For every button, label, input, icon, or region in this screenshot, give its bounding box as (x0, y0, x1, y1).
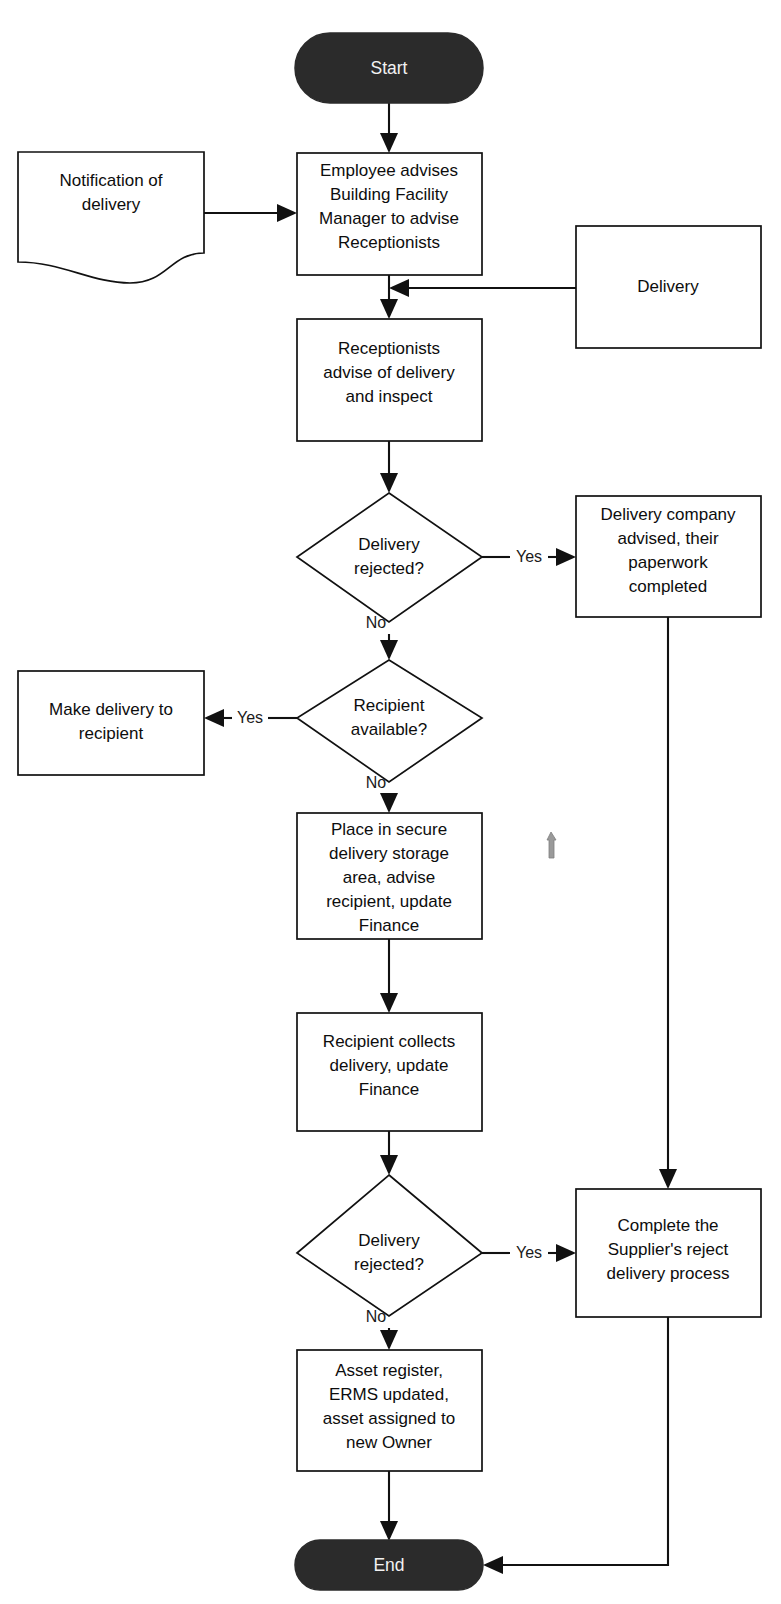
node-delivery-company-advised[interactable]: Delivery company advised, their paperwor… (576, 496, 761, 617)
node-collects-line-1: Recipient collects (323, 1032, 455, 1051)
edge-label-rejected1-yes: Yes (516, 548, 542, 565)
edge-asset-to-end (380, 1471, 398, 1541)
node-notification-line-2: delivery (82, 195, 141, 214)
node-decision-delivery-rejected-2[interactable]: Delivery rejected? (297, 1175, 482, 1316)
node-collects-line-3: Finance (359, 1080, 419, 1099)
node-rejected2-line-2: rejected? (354, 1255, 424, 1274)
edge-employee-to-receptionists (380, 275, 398, 319)
edge-label-available-yes: Yes (237, 709, 263, 726)
node-secure-line-3: area, advise (343, 868, 436, 887)
node-employee-line-4: Receptionists (338, 233, 440, 252)
node-decision-recipient-available[interactable]: Recipient available? (297, 660, 482, 782)
node-recipient-collects-delivery[interactable]: Recipient collects delivery, update Fina… (297, 1013, 482, 1131)
node-asset-register-updated[interactable]: Asset register, ERMS updated, asset assi… (297, 1350, 482, 1471)
node-end[interactable]: End (295, 1540, 483, 1590)
node-employee-line-1: Employee advises (320, 161, 458, 180)
node-asset-line-4: new Owner (346, 1433, 432, 1452)
flowchart-svg: Yes No Yes No (0, 0, 781, 1604)
node-complete-supplier-reject-process[interactable]: Complete the Supplier's reject delivery … (576, 1189, 761, 1317)
edge-start-to-employee (380, 103, 398, 153)
edge-secure-to-collects (380, 939, 398, 1013)
node-make-delivery-to-recipient[interactable]: Make delivery to recipient (18, 671, 204, 775)
node-rejected2-line-1: Delivery (358, 1231, 420, 1250)
edge-company-to-supplier (659, 617, 677, 1189)
node-asset-line-1: Asset register, (335, 1361, 443, 1380)
node-employee-line-2: Building Facility (330, 185, 449, 204)
node-end-label: End (373, 1555, 404, 1575)
edge-collects-to-rejected2 (380, 1131, 398, 1175)
node-delivery-label: Delivery (637, 277, 699, 296)
node-start[interactable]: Start (295, 33, 483, 103)
edge-label-rejected2-yes: Yes (516, 1244, 542, 1261)
edge-available-yes-to-makedelivery: Yes (204, 709, 297, 727)
node-notification-of-delivery[interactable]: Notification of delivery (18, 152, 204, 283)
node-asset-line-2: ERMS updated, (329, 1385, 449, 1404)
pointer-cursor-icon (547, 832, 556, 858)
node-secure-line-2: delivery storage (329, 844, 449, 863)
node-receptionists-advise[interactable]: Receptionists advise of delivery and ins… (297, 319, 482, 441)
node-supplier-line-1: Complete the (617, 1216, 718, 1235)
node-decision-delivery-rejected-1[interactable]: Delivery rejected? (297, 493, 482, 622)
edge-notification-to-employee (204, 204, 297, 222)
node-available-line-2: available? (351, 720, 428, 739)
node-company-line-4: completed (629, 577, 707, 596)
node-delivery[interactable]: Delivery (576, 226, 761, 348)
edge-receptionists-to-rejected1 (380, 441, 398, 493)
edge-rejected1-yes-to-company: Yes (482, 548, 576, 566)
node-company-line-2: advised, their (617, 529, 718, 548)
node-asset-line-3: asset assigned to (323, 1409, 455, 1428)
node-company-line-3: paperwork (628, 553, 708, 572)
node-supplier-line-2: Supplier's reject (608, 1240, 729, 1259)
edge-supplier-to-end (483, 1317, 668, 1574)
node-secure-line-5: Finance (359, 916, 419, 935)
node-supplier-line-3: delivery process (607, 1264, 730, 1283)
node-secure-line-1: Place in secure (331, 820, 447, 839)
node-available-line-1: Recipient (354, 696, 425, 715)
flowchart-canvas: Yes No Yes No (0, 0, 781, 1604)
edge-rejected2-yes-to-supplier: Yes (482, 1244, 576, 1262)
node-rejected1-line-2: rejected? (354, 559, 424, 578)
node-start-label: Start (371, 58, 408, 78)
node-collects-line-2: delivery, update (330, 1056, 449, 1075)
node-rejected1-line-1: Delivery (358, 535, 420, 554)
node-employee-line-3: Manager to advise (319, 209, 459, 228)
node-notification-line-1: Notification of (60, 171, 163, 190)
node-place-in-secure-storage[interactable]: Place in secure delivery storage area, a… (297, 813, 482, 939)
edge-delivery-to-receptionists (389, 279, 576, 297)
node-makedelivery-line-1: Make delivery to (49, 700, 173, 719)
node-receptionists-line-2: advise of delivery (323, 363, 455, 382)
node-makedelivery-line-2: recipient (79, 724, 144, 743)
node-receptionists-line-3: and inspect (346, 387, 433, 406)
node-company-line-1: Delivery company (600, 505, 736, 524)
node-employee-advises[interactable]: Employee advises Building Facility Manag… (297, 153, 482, 275)
node-receptionists-line-1: Receptionists (338, 339, 440, 358)
node-secure-line-4: recipient, update (326, 892, 452, 911)
